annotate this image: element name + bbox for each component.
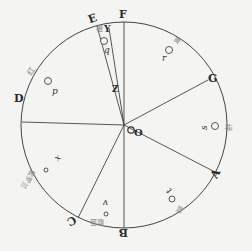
mark-x: x	[53, 153, 64, 164]
label-z: Z	[112, 84, 119, 94]
marker-indigo	[104, 212, 108, 216]
point-label-f: F	[119, 8, 127, 21]
mark-v: v	[103, 198, 108, 208]
color-name-yellow: 黄	[171, 35, 182, 46]
marker-violet	[44, 168, 48, 172]
radius-OG	[124, 80, 208, 125]
color-name-red: 红	[24, 64, 37, 76]
radius-OD	[22, 122, 124, 125]
marker-yellow	[166, 47, 173, 54]
mark-t: t	[164, 186, 174, 196]
point-label-b: B	[119, 226, 128, 239]
mark-p: p	[52, 86, 58, 96]
marker-green	[212, 123, 219, 130]
mark-q: q	[104, 45, 110, 55]
point-label-c: C	[64, 213, 78, 229]
marker-blue	[169, 196, 175, 202]
color-name-violet: 紫罗兰	[19, 168, 37, 191]
point-label-d: D	[14, 92, 24, 105]
point-label-g: G	[208, 72, 217, 85]
color-name-green: 绿	[224, 124, 233, 131]
marker-orange	[101, 38, 108, 45]
color-name-orange: 橙	[96, 24, 103, 33]
center-label-o: O	[134, 127, 143, 138]
color-circle-diagram: O Z F E Y G A B C D p q r s t v x 红 橙 黄 …	[0, 0, 252, 251]
color-name-indigo: 靛蓝	[90, 218, 104, 227]
radius-OC	[78, 125, 124, 218]
point-label-a: A	[207, 166, 223, 181]
marker-red	[45, 78, 52, 85]
point-label-y: Y	[103, 24, 111, 34]
mark-r: r	[162, 53, 167, 63]
radius-OY	[109, 28, 124, 125]
mark-s: s	[199, 125, 209, 130]
